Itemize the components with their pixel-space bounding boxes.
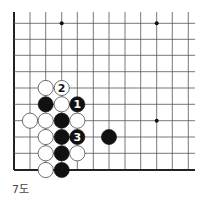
star-point: [60, 21, 64, 25]
white-stone: [38, 162, 53, 177]
black-stone-1: 1: [70, 97, 85, 112]
black-stone: [54, 162, 69, 177]
white-stone-2: 2: [54, 80, 69, 95]
black-stone-3: 3: [70, 129, 85, 144]
diagram-caption: 7도: [12, 180, 29, 196]
white-stone: [22, 113, 37, 128]
black-stone: [54, 113, 69, 128]
black-stone: [54, 146, 69, 161]
move-number-label: 3: [73, 131, 81, 144]
white-stone: [70, 113, 85, 128]
white-stone: [38, 129, 53, 144]
move-number-label: 1: [73, 98, 81, 111]
black-stone: [101, 129, 116, 144]
white-stone: [70, 146, 85, 161]
star-point: [155, 119, 159, 123]
move-number-label: 2: [58, 82, 66, 95]
white-stone: [38, 113, 53, 128]
white-stone: [38, 146, 53, 161]
black-stone: [54, 129, 69, 144]
stones: 213: [22, 80, 116, 177]
go-board: 213: [0, 0, 211, 201]
black-stone: [38, 97, 53, 112]
white-stone: [54, 97, 69, 112]
star-point: [155, 21, 159, 25]
white-stone: [38, 80, 53, 95]
